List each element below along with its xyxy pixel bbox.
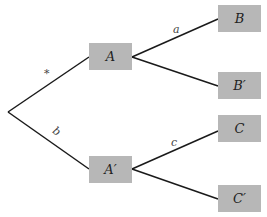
node-c-prime: C′ [218,185,261,212]
edge-label-root-a: * [44,68,50,79]
tree-diagram: A A′ B B′ C C′ * b a c [0,0,267,217]
node-a: A [89,43,132,70]
node-b-prime: B′ [218,72,261,99]
edge-root-to-a-prime [8,112,89,169]
edge-root-to-a [8,57,89,112]
edge-a-prime-to-c-prime [132,169,218,199]
edge-a-to-b-prime [132,57,218,86]
node-b: B [218,5,261,32]
node-c: C [218,115,261,142]
node-a-prime: A′ [89,156,132,183]
edge-label-a-b: a [173,24,180,35]
edge-label-a-prime-c: c [171,137,177,148]
